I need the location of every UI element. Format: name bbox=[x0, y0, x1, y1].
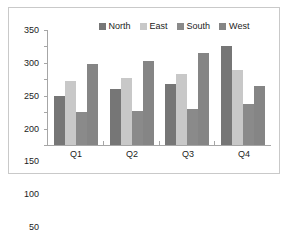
bar-west-q1[interactable] bbox=[87, 64, 98, 145]
bar-group-q2 bbox=[104, 30, 160, 145]
bar-north-q2[interactable] bbox=[110, 89, 121, 145]
x-axis-line bbox=[47, 145, 271, 146]
bar-east-q4[interactable] bbox=[232, 70, 243, 145]
bar-north-q3[interactable] bbox=[165, 84, 176, 145]
y-tick-mark: 200 bbox=[44, 79, 47, 80]
y-tick-mark: 50 bbox=[44, 129, 47, 130]
y-tick-label: 250 bbox=[24, 91, 39, 100]
legend-swatch-icon bbox=[140, 23, 147, 30]
bar-south-q1[interactable] bbox=[76, 112, 87, 146]
y-tick-label: 300 bbox=[24, 58, 39, 67]
bar-west-q2[interactable] bbox=[143, 61, 154, 145]
legend-swatch-icon bbox=[177, 23, 184, 30]
x-axis-labels: Q1Q2Q3Q4 bbox=[48, 150, 272, 159]
x-axis-label-q3: Q3 bbox=[160, 150, 216, 159]
x-axis-label-q4: Q4 bbox=[216, 150, 272, 159]
x-axis-label-q2: Q2 bbox=[104, 150, 160, 159]
y-tick-mark: 350 bbox=[44, 30, 47, 31]
plot-area: 050100150200250300350 bbox=[47, 30, 271, 146]
y-tick-label: 150 bbox=[24, 157, 39, 166]
bar-east-q2[interactable] bbox=[121, 78, 132, 145]
y-tick-mark: 0 bbox=[44, 145, 47, 146]
bar-south-q3[interactable] bbox=[187, 109, 198, 145]
y-tick-mark: 250 bbox=[44, 63, 47, 64]
bar-south-q2[interactable] bbox=[132, 111, 143, 145]
bar-west-q4[interactable] bbox=[254, 86, 265, 145]
y-tick-mark: 300 bbox=[44, 46, 47, 47]
y-tick-label: 200 bbox=[24, 124, 39, 133]
bar-group-q1 bbox=[48, 30, 104, 145]
bar-group-q4 bbox=[215, 30, 271, 145]
chart-frame: NorthEastSouthWest 050100150200250300350… bbox=[8, 7, 280, 174]
legend-swatch-icon bbox=[219, 23, 226, 30]
bars-layer bbox=[48, 30, 271, 145]
bar-west-q3[interactable] bbox=[198, 53, 209, 145]
bar-north-q4[interactable] bbox=[221, 46, 232, 145]
bar-east-q3[interactable] bbox=[176, 74, 187, 145]
y-tick-mark: 150 bbox=[44, 96, 47, 97]
bar-group-q3 bbox=[160, 30, 216, 145]
y-tick-mark: 100 bbox=[44, 112, 47, 113]
bar-east-q1[interactable] bbox=[65, 81, 76, 145]
bar-north-q1[interactable] bbox=[54, 96, 65, 145]
legend-swatch-icon bbox=[99, 23, 106, 30]
x-axis-label-q1: Q1 bbox=[48, 150, 104, 159]
y-tick-label: 350 bbox=[24, 26, 39, 35]
bar-south-q4[interactable] bbox=[243, 104, 254, 145]
